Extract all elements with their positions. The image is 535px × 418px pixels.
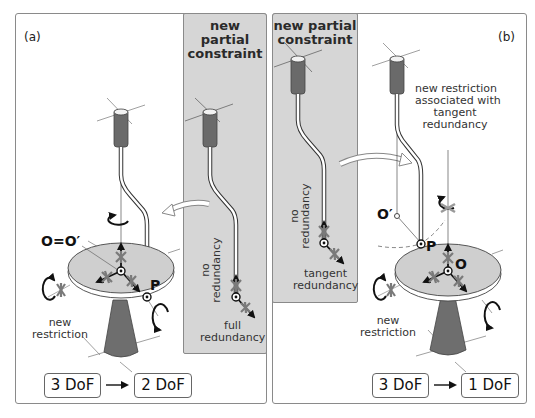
label-full-redundancy: full redundancy xyxy=(200,320,265,344)
label-no-redundancy: no redundancy xyxy=(289,181,311,251)
rotation-arrow-icon xyxy=(108,215,128,225)
label-no-redundancy: no redundancy xyxy=(200,235,222,305)
handle-icon xyxy=(390,57,404,94)
label-point-o: O xyxy=(455,256,467,272)
handle-icon xyxy=(291,57,305,94)
handle-icon xyxy=(203,110,217,147)
diagram-graphics xyxy=(0,0,535,418)
label-tangent-restriction: new restriction associated with tangent … xyxy=(415,83,495,131)
hollow-arrow-icon xyxy=(399,153,412,166)
label-point-p: P xyxy=(150,277,160,293)
dof-box-to: 2 DoF xyxy=(134,373,192,398)
handle-icon xyxy=(114,110,128,147)
dof-box-from: 3 DoF xyxy=(44,373,101,398)
pedestal-icon xyxy=(104,300,138,357)
rotation-arrow-icon xyxy=(153,304,168,330)
dof-box-from: 3 DoF xyxy=(372,373,429,398)
dof-box-to: 1 DoF xyxy=(461,373,519,398)
label-tangent-redundancy: tangent redundancy xyxy=(293,268,358,292)
label-new-restriction: new restriction xyxy=(30,317,90,341)
pedestal-icon xyxy=(430,297,466,355)
rotation-arrow-icon xyxy=(485,302,500,328)
label-point-p: P xyxy=(426,238,436,254)
label-o-prime: O′ xyxy=(377,206,393,222)
label-new-restriction: new restriction xyxy=(358,315,418,339)
restriction-rotation-icon xyxy=(374,278,386,300)
point-o-prime-marker xyxy=(395,214,400,219)
label-o-equals-o-prime: O=O′ xyxy=(41,233,80,249)
